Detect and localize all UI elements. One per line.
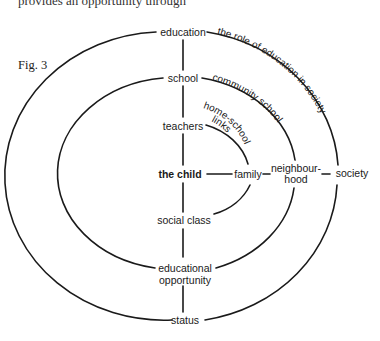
inner-arc-bottom [214, 185, 250, 214]
outer-ring-left [5, 32, 172, 320]
node-status: status [171, 314, 199, 326]
education-diagram: education school teachers the child fami… [0, 0, 380, 341]
middle-ring-left [58, 78, 163, 268]
node-educational-opportunity-line2: opportunity [159, 274, 212, 286]
node-social-class: social class [157, 214, 211, 226]
node-educational-opportunity-line1: educational [158, 262, 212, 274]
node-education: education [160, 26, 206, 38]
node-neighbourhood-line2: hood [284, 173, 308, 185]
arc-label-outer: the role of education in society [216, 25, 328, 115]
node-the-child: the child [158, 168, 201, 180]
middle-ring-bottom-right [216, 188, 294, 268]
node-society: society [336, 167, 369, 179]
node-school: school [168, 72, 198, 84]
outer-ring-bottom-right [205, 185, 337, 320]
node-family: family [234, 168, 262, 180]
node-teachers: teachers [163, 120, 203, 132]
